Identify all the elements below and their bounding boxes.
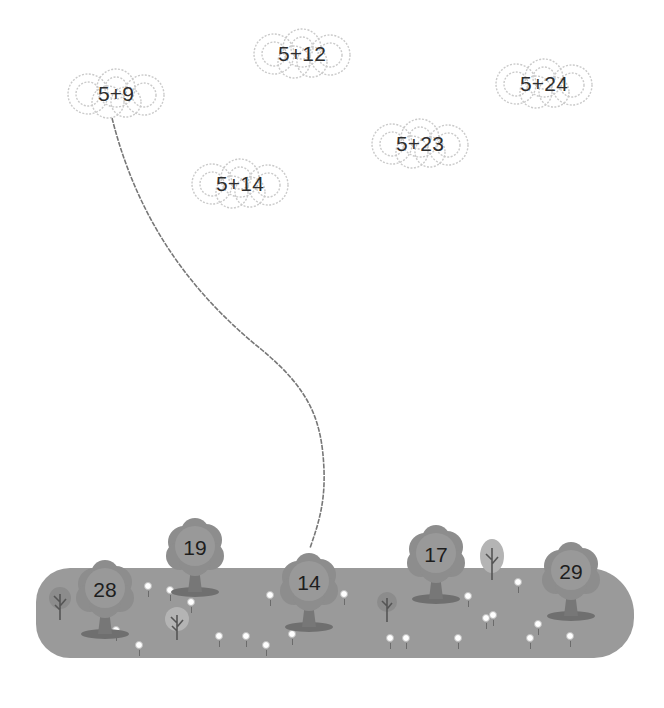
cloud-expression: 5+23 — [396, 132, 444, 156]
tree-number: 14 — [278, 571, 340, 595]
tree-number: 17 — [405, 543, 467, 567]
small-tree-icon — [478, 536, 506, 582]
tree-19[interactable]: 19 — [164, 518, 226, 600]
cloud-5-plus-14[interactable]: 5+14 — [186, 158, 294, 210]
cloud-expression: 5+12 — [278, 42, 326, 66]
tree-number: 29 — [540, 560, 602, 584]
tree-29[interactable]: 29 — [540, 542, 602, 624]
tree-14[interactable]: 14 — [278, 553, 340, 635]
cloud-expression: 5+24 — [520, 72, 568, 96]
tree-17[interactable]: 17 — [405, 525, 467, 607]
tree-number: 28 — [74, 578, 136, 602]
cloud-5-plus-24[interactable]: 5+24 — [490, 58, 598, 110]
small-tree-icon — [46, 586, 74, 622]
cloud-5-plus-12[interactable]: 5+12 — [248, 28, 356, 80]
small-tree-icon — [374, 590, 400, 624]
cloud-expression: 5+9 — [98, 82, 134, 106]
cloud-5-plus-9[interactable]: 5+9 — [62, 68, 170, 120]
cloud-expression: 5+14 — [216, 172, 264, 196]
tree-28[interactable]: 28 — [74, 560, 136, 642]
cloud-5-plus-23[interactable]: 5+23 — [366, 118, 474, 170]
small-tree-icon — [162, 606, 192, 642]
tree-number: 19 — [164, 536, 226, 560]
